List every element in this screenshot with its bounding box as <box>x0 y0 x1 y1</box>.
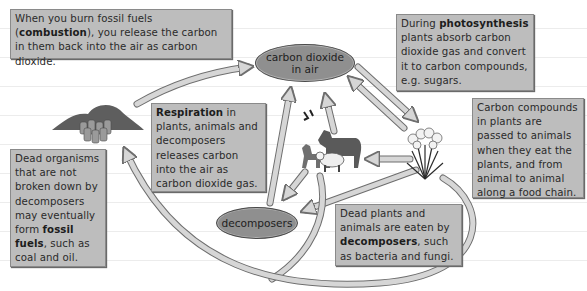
box-respiration: Respiration in plants, animals and decom… <box>151 103 266 192</box>
node-decomposers-label: decomposers <box>222 217 293 229</box>
node-carbon-dioxide-line2: in air <box>266 63 344 75</box>
term-photosynthesis: photosynthesis <box>439 18 528 29</box>
term-decomposers: decomposers <box>340 236 417 247</box>
node-carbon-dioxide-line1: carbon dioxide <box>266 51 344 63</box>
arrow-respiration-decomposers <box>270 92 290 203</box>
box-dead-organisms: Dead organisms that are not broken down … <box>10 149 106 267</box>
term-combustion: combustion <box>19 27 87 38</box>
arrow-combustion <box>137 67 248 104</box>
animals-illustration <box>296 108 366 177</box>
plants-illustration <box>404 125 446 184</box>
box-combustion: When you burn fossil fuels (combustion),… <box>10 9 232 59</box>
term-respiration: Respiration <box>156 107 223 118</box>
box-photosynthesis: During photosynthesis plants absorb carb… <box>396 14 534 91</box>
node-decomposers: decomposers <box>216 207 298 239</box>
fossil-fuels-illustration <box>50 100 145 149</box>
box-decomposition: Dead plants and animals are eaten by dec… <box>335 204 462 266</box>
birds-icon <box>304 110 313 120</box>
node-carbon-dioxide-in-air: carbon dioxide in air <box>255 44 355 82</box>
box-food-chain: Carbon compounds in plants are passed to… <box>472 98 584 198</box>
